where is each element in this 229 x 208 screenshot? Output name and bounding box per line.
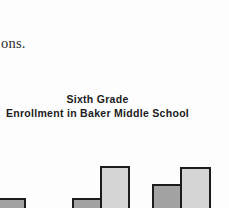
- bar-group3-dark: [152, 184, 182, 208]
- scanned-page: ons. Sixth Grade Enrollment in Baker Mid…: [0, 0, 229, 208]
- bar-group2-dark: [72, 198, 102, 208]
- bar-group1-dark: [0, 198, 26, 208]
- bar-group3-light: [180, 167, 211, 208]
- bar-group2-light: [100, 166, 130, 208]
- chart-title-line-2: Enrollment in Baker Middle School: [0, 106, 212, 120]
- chart-title: Sixth Grade Enrollment in Baker Middle S…: [0, 92, 212, 120]
- chart-title-line-1: Sixth Grade: [0, 92, 212, 106]
- bar-chart: Sixth Grade Enrollment in Baker Middle S…: [0, 0, 229, 208]
